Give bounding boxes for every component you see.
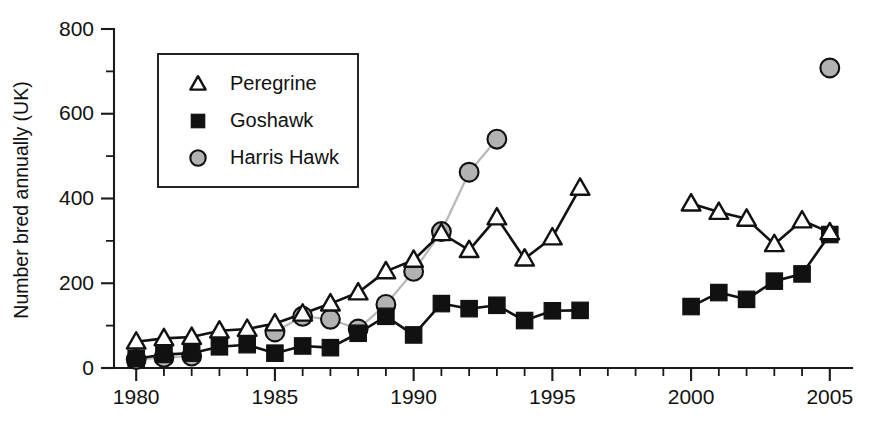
square-filled-marker: [211, 339, 227, 355]
chart-figure: 0200400600800 198019851990199520002005 N…: [0, 0, 872, 435]
square-filled-marker: [267, 345, 283, 361]
circle-gray-marker: [820, 59, 839, 78]
square-filled-marker: [794, 266, 810, 282]
series-markers-peregrine: [127, 178, 839, 348]
square-filled-marker: [191, 114, 204, 127]
square-filled-marker: [544, 303, 560, 319]
y-tick-label: 600: [59, 101, 94, 124]
y-axis-tick-labels: 0200400600800: [59, 17, 94, 379]
square-filled-marker: [738, 291, 754, 307]
square-filled-marker: [572, 302, 588, 318]
y-tick-label: 800: [59, 17, 94, 40]
square-filled-marker: [516, 312, 532, 328]
y-axis-ticks: [101, 29, 114, 368]
square-filled-marker: [128, 350, 144, 366]
triangle-open-marker: [571, 178, 590, 194]
square-filled-marker: [766, 273, 782, 289]
square-filled-marker: [378, 308, 394, 324]
y-tick-label: 200: [59, 271, 94, 294]
x-tick-label: 1995: [529, 385, 576, 408]
x-tick-label: 2005: [806, 385, 853, 408]
x-tick-label: 2000: [668, 385, 715, 408]
legend-entry-label: Peregrine: [230, 72, 317, 94]
x-tick-label: 1985: [252, 385, 299, 408]
square-filled-marker: [183, 345, 199, 361]
square-filled-marker: [350, 325, 366, 341]
circle-gray-marker: [321, 310, 340, 329]
series-line-peregrine: [136, 188, 830, 342]
x-tick-label: 1990: [390, 385, 437, 408]
triangle-open-marker: [349, 283, 368, 299]
square-filled-marker: [294, 338, 310, 354]
triangle-open-marker: [488, 208, 507, 224]
chart-plot-area: 0200400600800 198019851990199520002005 N…: [0, 0, 872, 435]
legend-entry-label: Harris Hawk: [230, 146, 340, 168]
x-tick-label: 1980: [113, 385, 160, 408]
square-filled-marker: [461, 300, 477, 316]
square-filled-marker: [433, 295, 449, 311]
circle-gray-marker: [460, 163, 479, 182]
triangle-open-marker: [682, 194, 701, 210]
triangle-open-marker: [515, 249, 534, 265]
square-filled-marker: [711, 284, 727, 300]
square-filled-marker: [239, 336, 255, 352]
triangle-open-marker: [793, 211, 812, 227]
chart-legend: PeregrineGoshawkHarris Hawk: [158, 54, 358, 187]
y-tick-label: 0: [82, 356, 94, 379]
circle-gray-marker: [190, 150, 205, 165]
x-axis-ticks: [136, 368, 830, 381]
square-filled-marker: [683, 298, 699, 314]
square-filled-marker: [156, 346, 172, 362]
square-filled-marker: [322, 339, 338, 355]
circle-gray-marker: [487, 130, 506, 149]
y-axis-title: Number bred annually (UK): [10, 81, 32, 318]
triangle-open-marker: [543, 228, 562, 244]
y-tick-label: 400: [59, 186, 94, 209]
square-filled-marker: [489, 297, 505, 313]
x-axis-tick-labels: 198019851990199520002005: [113, 385, 853, 408]
square-filled-marker: [405, 327, 421, 343]
legend-entry-label: Goshawk: [230, 109, 314, 131]
